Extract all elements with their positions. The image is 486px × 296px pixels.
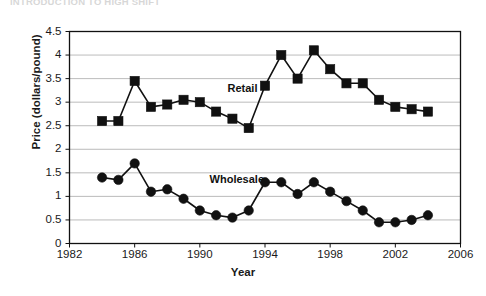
data-point-retail	[97, 116, 106, 125]
data-point-retail	[212, 107, 221, 116]
data-point-wholesale	[195, 206, 204, 215]
data-point-retail	[423, 107, 432, 116]
data-point-wholesale	[97, 173, 106, 182]
data-point-wholesale	[391, 218, 400, 227]
data-point-wholesale	[244, 206, 253, 215]
data-point-retail	[374, 95, 383, 104]
data-point-retail	[407, 105, 416, 114]
data-point-wholesale	[130, 159, 139, 168]
data-point-retail	[358, 79, 367, 88]
data-point-retail	[342, 79, 351, 88]
data-point-retail	[277, 50, 286, 59]
data-point-wholesale	[211, 211, 220, 220]
data-point-retail	[228, 114, 237, 123]
data-point-wholesale	[114, 175, 123, 184]
data-point-wholesale	[179, 194, 188, 203]
data-point-wholesale	[228, 213, 237, 222]
data-point-retail	[244, 123, 253, 132]
data-point-wholesale	[342, 196, 351, 205]
plot-area	[0, 0, 486, 296]
data-point-wholesale	[423, 211, 432, 220]
data-point-retail	[163, 100, 172, 109]
data-point-retail	[293, 74, 302, 83]
data-point-wholesale	[293, 189, 302, 198]
plot-frame	[70, 32, 461, 244]
data-point-retail	[309, 46, 318, 55]
data-point-wholesale	[163, 185, 172, 194]
data-point-wholesale	[358, 206, 367, 215]
data-point-retail	[179, 95, 188, 104]
data-point-wholesale	[277, 178, 286, 187]
data-point-wholesale	[407, 215, 416, 224]
data-point-wholesale	[309, 178, 318, 187]
data-point-retail	[146, 102, 155, 111]
data-point-retail	[391, 102, 400, 111]
data-point-wholesale	[374, 218, 383, 227]
data-point-retail	[130, 76, 139, 85]
chart-figure: INTRODUCTION TO HIGH SHIFT Price (dollar…	[0, 0, 486, 296]
data-point-wholesale	[325, 187, 334, 196]
data-point-retail	[326, 65, 335, 74]
data-point-retail	[195, 98, 204, 107]
data-point-wholesale	[146, 187, 155, 196]
data-point-retail	[114, 116, 123, 125]
data-point-wholesale	[260, 178, 269, 187]
data-point-retail	[260, 81, 269, 90]
